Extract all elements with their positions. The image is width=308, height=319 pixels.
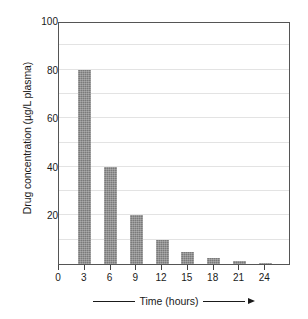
x-tick-label: 12 (149, 272, 173, 283)
x-tick-label: 9 (123, 272, 147, 283)
x-tick-label: 24 (252, 272, 276, 283)
x-tick (213, 265, 214, 270)
y-tick-label: 40 (28, 163, 58, 173)
y-tick-label: 100 (28, 17, 58, 27)
bar (130, 215, 143, 264)
gridline (59, 166, 289, 167)
arrow-right-icon (248, 298, 255, 304)
plot-area (58, 22, 290, 265)
y-tick-label: 20 (28, 211, 58, 221)
gridline (59, 239, 289, 240)
gridline (59, 117, 289, 118)
x-tick (187, 265, 188, 270)
gridline (59, 190, 289, 191)
x-tick-label: 15 (175, 272, 199, 283)
y-axis-ticks: 10080604020 (22, 22, 58, 265)
x-axis-ticks: 03691215182124 (58, 265, 290, 289)
y-tick-label: 60 (28, 114, 58, 124)
axis-line-right (203, 301, 245, 302)
gridline (59, 93, 289, 94)
x-axis-title-row: Time (hours) (58, 293, 290, 309)
bar (259, 263, 272, 264)
x-tick-label: 0 (46, 272, 70, 283)
y-tick-label: 80 (28, 66, 58, 76)
chart-figure: Drug concentration (µg/L plasma) 1008060… (0, 0, 308, 319)
x-tick-label: 21 (226, 272, 250, 283)
x-tick (161, 265, 162, 270)
bar (181, 252, 194, 264)
bar (78, 70, 91, 264)
bar (207, 258, 220, 264)
gridline (59, 44, 289, 45)
axis-line-left (93, 301, 135, 302)
x-tick (135, 265, 136, 270)
x-tick (110, 265, 111, 270)
x-tick-label: 18 (201, 272, 225, 283)
gridline (59, 214, 289, 215)
bar (104, 167, 117, 264)
x-tick-label: 3 (72, 272, 96, 283)
x-tick (264, 265, 265, 270)
bar (156, 240, 169, 264)
x-tick-label: 6 (98, 272, 122, 283)
x-tick (58, 265, 59, 270)
x-tick (238, 265, 239, 270)
gridline (59, 142, 289, 143)
gridline (59, 69, 289, 70)
x-axis-title: Time (hours) (139, 295, 198, 307)
x-tick (84, 265, 85, 270)
bar (233, 261, 246, 264)
